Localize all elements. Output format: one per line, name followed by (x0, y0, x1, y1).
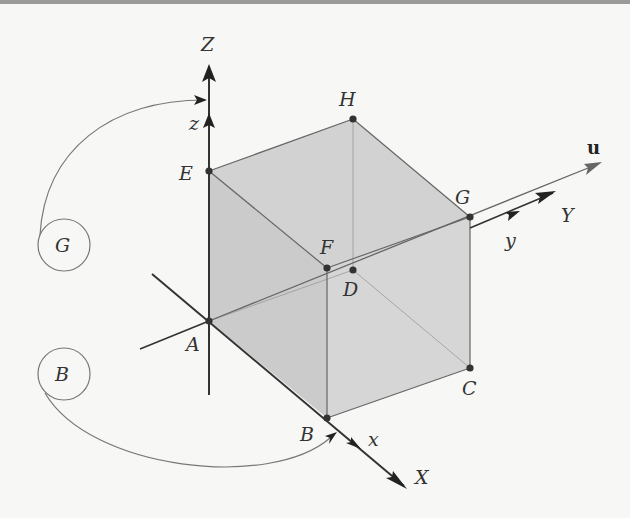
vector-u-label: u (587, 137, 600, 158)
vertex-G-dot (466, 213, 473, 220)
z-sub-label: z (188, 112, 200, 134)
vertex-A-dot (205, 317, 212, 324)
vertex-C-label: C (462, 377, 477, 399)
vertex-E-dot (205, 167, 212, 174)
y-sub-arrowhead (505, 211, 520, 221)
callout-B-label: B (54, 363, 69, 385)
x-axis-label: X (413, 466, 430, 488)
vertex-A-label: A (184, 333, 200, 355)
y-axis-label: Y (561, 204, 576, 226)
vertex-B-label: B (299, 423, 314, 445)
callout-G-label: G (55, 234, 70, 256)
vertex-D-label: D (342, 278, 358, 300)
vertex-F-label: F (319, 236, 334, 258)
vertex-B-dot (323, 414, 330, 421)
diagram-canvas: Z z X x Y y u A B C D E F G H G B (0, 0, 630, 518)
x-sub-label: x (368, 428, 379, 450)
vertex-F-dot (323, 264, 330, 271)
callout-B-arrowhead (325, 432, 337, 444)
vertex-C-dot (466, 364, 473, 371)
callout-B-arc (45, 393, 330, 467)
vertex-E-label: E (178, 162, 193, 184)
vertex-G-label: G (455, 186, 470, 208)
y-axis-arrowhead (535, 191, 556, 204)
y-sub-label: y (504, 229, 516, 251)
vertex-H-label: H (338, 88, 356, 110)
vertex-D-dot (349, 266, 356, 273)
vertex-H-dot (349, 115, 356, 122)
cube-diagram: Z z X x Y y u A B C D E F G H G B (0, 0, 630, 518)
z-axis-label: Z (200, 33, 215, 55)
